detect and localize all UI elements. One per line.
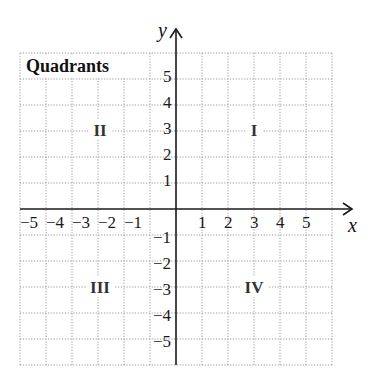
- svg-text:5: 5: [163, 67, 172, 86]
- svg-text:−2: −2: [98, 213, 116, 232]
- svg-text:−2: −2: [153, 254, 171, 273]
- svg-text:4: 4: [276, 213, 285, 232]
- svg-text:2: 2: [163, 145, 172, 164]
- y-axis-label: y: [156, 19, 167, 42]
- quadrant-iii-label: III: [90, 278, 110, 297]
- quadrant-iv-label: IV: [245, 278, 265, 297]
- svg-text:−1: −1: [124, 213, 142, 232]
- y-tick-labels-positive: 5 4 3 2 1: [163, 67, 172, 190]
- svg-text:−1: −1: [153, 228, 171, 247]
- y-tick-labels-negative: −1 −2 −3 −4 −5: [153, 228, 172, 351]
- svg-text:3: 3: [163, 119, 172, 138]
- svg-text:2: 2: [224, 213, 233, 232]
- svg-text:−5: −5: [153, 332, 171, 351]
- x-axis-label: x: [347, 214, 357, 236]
- svg-text:−4: −4: [153, 306, 172, 325]
- diagram-title: Quadrants: [26, 56, 109, 76]
- svg-text:1: 1: [163, 171, 172, 190]
- svg-text:5: 5: [302, 213, 311, 232]
- svg-text:−3: −3: [153, 280, 171, 299]
- svg-text:−3: −3: [72, 213, 90, 232]
- coordinate-plane: y x Quadrants −5 −4 −3 −2 −1 1 2 3 4 5 5…: [0, 0, 378, 388]
- quadrant-i-label: I: [251, 121, 258, 140]
- svg-text:−5: −5: [20, 213, 38, 232]
- svg-text:1: 1: [198, 213, 207, 232]
- svg-text:3: 3: [250, 213, 259, 232]
- svg-text:4: 4: [163, 93, 172, 112]
- quadrant-ii-label: II: [93, 121, 107, 140]
- svg-text:−4: −4: [46, 213, 65, 232]
